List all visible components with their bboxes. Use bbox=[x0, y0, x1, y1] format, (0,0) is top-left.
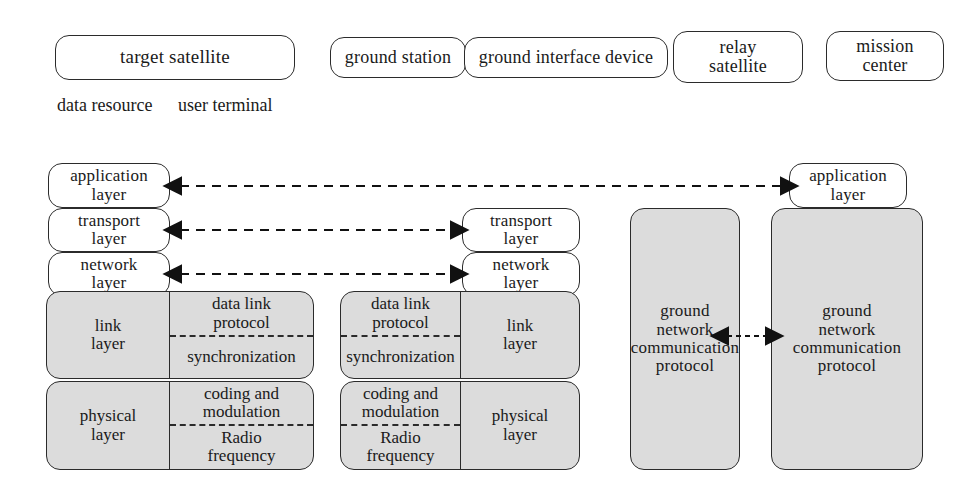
ground-network-left-line4: protocol bbox=[656, 357, 714, 375]
left-physical-detail-bottom-line2: frequency bbox=[208, 447, 276, 465]
left-physical-layer-detail-bottom: Radio frequency bbox=[170, 424, 313, 469]
connector-transport-layer-link bbox=[170, 220, 462, 240]
middle-physical-layer-main: physical layer bbox=[461, 382, 579, 469]
middle-link-detail-bottom-line1: synchronization bbox=[346, 348, 455, 366]
left-link-detail-top-line1: data link bbox=[212, 295, 271, 313]
middle-physical-detail-top-line1: coding and bbox=[363, 385, 438, 403]
ground-network-left-line2: network bbox=[656, 321, 713, 339]
middle-link-detail-top-line1: data link bbox=[371, 295, 430, 313]
left-physical-layer[interactable]: physical layer coding and modulation Rad… bbox=[46, 381, 314, 470]
left-link-layer-detail-bottom: synchronization bbox=[170, 335, 313, 378]
middle-link-detail-top-line2: protocol bbox=[372, 314, 429, 332]
legend-label-ground-station: ground station bbox=[345, 48, 451, 67]
middle-link-layer-main-line1: link bbox=[507, 317, 533, 335]
left-link-layer-detail-top: data link protocol bbox=[170, 292, 313, 335]
left-link-layer-main: link layer bbox=[47, 292, 169, 378]
left-link-detail-bottom-line1: synchronization bbox=[187, 348, 296, 366]
middle-link-layer-main: link layer bbox=[461, 292, 579, 378]
middle-transport-layer-line1: transport bbox=[490, 212, 552, 230]
middle-network-layer[interactable]: network layer bbox=[462, 252, 580, 296]
left-transport-layer-line2: layer bbox=[92, 230, 127, 248]
diagram-canvas: target satellite ground station ground i… bbox=[0, 0, 958, 499]
ground-network-right-line4: protocol bbox=[818, 357, 876, 375]
ground-network-protocol-right[interactable]: ground network communication protocol bbox=[771, 208, 923, 470]
left-physical-detail-bottom-line1: Radio bbox=[221, 429, 262, 447]
left-link-layer-main-line1: link bbox=[95, 317, 121, 335]
legend-node-mission-center[interactable]: mission center bbox=[826, 31, 944, 81]
middle-transport-layer-line2: layer bbox=[504, 230, 539, 248]
legend-node-target-satellite[interactable]: target satellite bbox=[55, 35, 295, 80]
legend-label-mission-center-line1: mission bbox=[856, 37, 913, 56]
middle-transport-layer[interactable]: transport layer bbox=[462, 208, 580, 252]
left-network-layer[interactable]: network layer bbox=[48, 252, 170, 296]
left-link-layer-details: data link protocol synchronization bbox=[170, 292, 313, 378]
ground-network-right-line2: network bbox=[818, 321, 875, 339]
legend-label-relay-satellite-line2: satellite bbox=[709, 57, 767, 76]
left-transport-layer[interactable]: transport layer bbox=[48, 208, 170, 252]
middle-link-layer[interactable]: data link protocol synchronization link … bbox=[340, 291, 580, 379]
legend-label-ground-interface-device: ground interface device bbox=[479, 48, 654, 67]
left-physical-detail-top-line1: coding and bbox=[204, 385, 279, 403]
right-application-layer-line1: application bbox=[809, 167, 887, 185]
left-transport-layer-line1: transport bbox=[78, 212, 140, 230]
ground-network-protocol-left[interactable]: ground network communication protocol bbox=[630, 208, 740, 470]
left-physical-layer-details: coding and modulation Radio frequency bbox=[170, 382, 313, 469]
legend-node-ground-interface-device[interactable]: ground interface device bbox=[464, 37, 668, 78]
left-network-layer-line1: network bbox=[80, 256, 137, 274]
legend-plain-label-user-terminal: user terminal bbox=[178, 96, 272, 114]
middle-network-layer-line2: layer bbox=[504, 274, 539, 292]
left-physical-layer-detail-top: coding and modulation bbox=[170, 382, 313, 424]
ground-network-right-line3: communication bbox=[793, 339, 901, 357]
left-network-layer-line2: layer bbox=[92, 274, 127, 292]
connector-network-layer-link bbox=[170, 264, 462, 284]
left-physical-layer-main-line1: physical bbox=[80, 407, 137, 425]
middle-physical-layer-detail-bottom: Radio frequency bbox=[341, 424, 460, 469]
middle-physical-layer-main-line1: physical bbox=[492, 407, 549, 425]
middle-link-layer-main-line2: layer bbox=[503, 335, 537, 353]
middle-physical-detail-bottom-line2: frequency bbox=[367, 447, 435, 465]
middle-link-layer-details: data link protocol synchronization bbox=[341, 292, 460, 378]
ground-network-right-line1: ground bbox=[822, 302, 871, 320]
left-link-layer-main-line2: layer bbox=[91, 335, 125, 353]
legend-node-relay-satellite[interactable]: relay satellite bbox=[673, 31, 803, 83]
middle-link-layer-detail-bottom: synchronization bbox=[341, 335, 460, 378]
middle-physical-layer-detail-top: coding and modulation bbox=[341, 382, 460, 424]
middle-physical-layer-main-line2: layer bbox=[503, 426, 537, 444]
left-physical-layer-main-line2: layer bbox=[91, 426, 125, 444]
middle-physical-layer-details: coding and modulation Radio frequency bbox=[341, 382, 460, 469]
left-link-detail-top-line2: protocol bbox=[213, 314, 270, 332]
right-application-layer-line2: layer bbox=[831, 186, 866, 204]
middle-link-layer-detail-top: data link protocol bbox=[341, 292, 460, 335]
right-application-layer[interactable]: application layer bbox=[789, 163, 907, 208]
middle-physical-detail-bottom-line1: Radio bbox=[380, 429, 421, 447]
legend-node-ground-station[interactable]: ground station bbox=[330, 37, 466, 78]
left-application-layer[interactable]: application layer bbox=[48, 163, 170, 208]
left-physical-layer-main: physical layer bbox=[47, 382, 169, 469]
left-application-layer-line1: application bbox=[70, 167, 148, 185]
legend-label-mission-center-line2: center bbox=[862, 56, 907, 75]
middle-physical-detail-top-line2: modulation bbox=[362, 403, 439, 421]
legend-label-target-satellite: target satellite bbox=[120, 47, 230, 68]
legend-plain-label-data-resource: data resource bbox=[57, 96, 152, 114]
ground-network-left-line1: ground bbox=[660, 302, 709, 320]
legend-label-relay-satellite-line1: relay bbox=[720, 38, 757, 57]
left-link-layer[interactable]: link layer data link protocol synchroniz… bbox=[46, 291, 314, 379]
middle-physical-layer[interactable]: coding and modulation Radio frequency ph… bbox=[340, 381, 580, 470]
left-physical-detail-top-line2: modulation bbox=[203, 403, 280, 421]
connector-application-layer-link bbox=[170, 176, 792, 196]
middle-network-layer-line1: network bbox=[492, 256, 549, 274]
ground-network-left-line3: communication bbox=[631, 339, 739, 357]
left-application-layer-line2: layer bbox=[92, 186, 127, 204]
